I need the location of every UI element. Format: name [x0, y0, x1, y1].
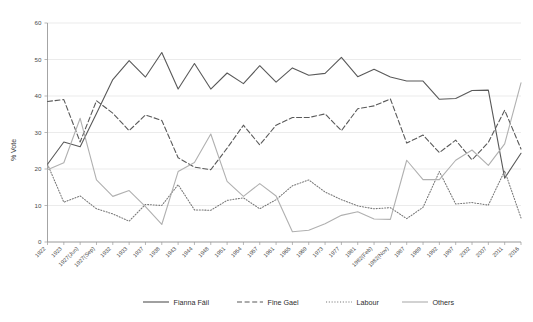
- data-series-group: [48, 53, 522, 232]
- y-axis-title: % Vote: [10, 139, 17, 161]
- x-tick-label: 1943: [164, 245, 177, 258]
- x-tick-label: 2011: [491, 245, 504, 258]
- x-tick-label: 1989: [409, 245, 422, 258]
- legend-label-others: Others: [433, 298, 455, 307]
- series-line-fianna-f-il: [48, 53, 522, 179]
- series-line-fine-gael: [48, 99, 522, 170]
- legend-label-fianna-f-il: Fianna Fáil: [174, 298, 210, 307]
- election-vote-share-chart: 0102030405060 192219231927(Jun)1927(Sep)…: [0, 0, 533, 322]
- x-tick-label: 1965: [279, 245, 292, 258]
- gridlines-group: [48, 23, 522, 242]
- x-tick-label: 1992: [426, 245, 439, 258]
- y-tick-label: 20: [35, 165, 42, 172]
- y-axis-title-group: % Vote: [10, 139, 17, 161]
- x-tick-label: 1977: [328, 245, 341, 258]
- y-tick-label: 30: [35, 129, 42, 136]
- series-line-others: [48, 83, 522, 232]
- x-tick-label: 1973: [311, 245, 324, 258]
- y-tick-label: 50: [35, 56, 42, 63]
- legend: Fianna FáilFine GaelLabourOthers: [143, 298, 454, 307]
- x-tick-label: 1922: [34, 245, 47, 258]
- x-tick-label: 1954: [230, 245, 243, 258]
- legend-label-fine-gael: Fine Gael: [268, 298, 300, 307]
- x-tick-label: 1948: [197, 245, 210, 258]
- x-tick-label: 1981: [344, 245, 357, 258]
- y-tick-label: 10: [35, 202, 42, 209]
- x-tick-label: 1961: [262, 245, 275, 258]
- x-axis-group: 192219231927(Jun)1927(Sep)19321933193719…: [34, 242, 521, 268]
- x-tick-label: 2007: [475, 245, 488, 258]
- x-tick-label: 1957: [246, 245, 259, 258]
- x-tick-label: 2002: [458, 245, 471, 258]
- x-tick-label: 1944: [181, 245, 194, 258]
- y-axis-group: 0102030405060: [35, 19, 48, 245]
- x-tick-label: 1951: [213, 245, 226, 258]
- y-tick-label: 60: [35, 19, 42, 26]
- x-tick-label: 1923: [50, 245, 63, 258]
- x-tick-label: 2016: [507, 245, 520, 258]
- legend-label-labour: Labour: [357, 298, 380, 307]
- x-tick-label: 1937: [132, 245, 145, 258]
- x-tick-label: 1933: [115, 245, 128, 258]
- chart-canvas: 0102030405060 192219231927(Jun)1927(Sep)…: [0, 0, 533, 322]
- x-tick-label: 1938: [148, 245, 161, 258]
- x-tick-label: 1969: [295, 245, 308, 258]
- y-tick-label: 0: [38, 238, 42, 245]
- x-tick-label: 1987: [393, 245, 406, 258]
- x-tick-label: 1932: [99, 245, 112, 258]
- x-tick-label: 1997: [442, 245, 455, 258]
- y-tick-label: 40: [35, 92, 42, 99]
